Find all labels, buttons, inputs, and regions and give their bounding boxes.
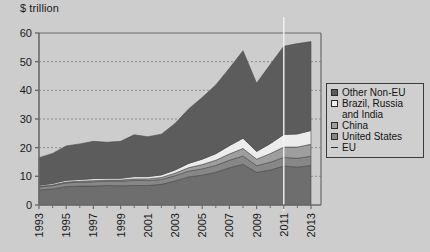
legend-label-united-states: United States — [342, 131, 402, 142]
x-tick-2009: 2009 — [251, 213, 263, 237]
legend-swatch-china — [331, 122, 338, 129]
legend-item-eu: EU — [331, 142, 420, 153]
y-tick-60: 60 — [20, 27, 32, 39]
y-tick-40: 40 — [20, 84, 32, 96]
x-tick-2011: 2011 — [278, 213, 290, 237]
legend-label-china: China — [342, 120, 368, 131]
x-tick-labels: 1993199519971999200120032005200720092011… — [33, 213, 317, 237]
x-tick-2007: 2007 — [223, 213, 235, 237]
x-tick-1997: 1997 — [87, 213, 99, 237]
y-tick-50: 50 — [20, 56, 32, 68]
legend-item-other-non-eu: Other Non-EU — [331, 87, 420, 98]
x-tick-2003: 2003 — [169, 213, 181, 237]
legend-item-china: China — [331, 120, 420, 131]
area-layers — [39, 42, 311, 205]
y-tick-30: 30 — [20, 113, 32, 125]
legend-label-brazil-russia-india-line2: and India — [342, 109, 420, 120]
legend-label-other-non-eu: Other Non-EU — [342, 87, 405, 98]
y-tick-20: 20 — [20, 142, 32, 154]
y-tick-labels: 0102030405060 — [20, 27, 32, 211]
legend-item-united-states: United States — [331, 131, 420, 142]
x-tick-2013: 2013 — [305, 213, 317, 237]
x-tick-1999: 1999 — [115, 213, 127, 237]
y-tick-0: 0 — [26, 199, 32, 211]
chart-legend: Other Non-EU Brazil, Russia and India Ch… — [326, 83, 424, 158]
legend-swatch-brazil-russia-india — [331, 100, 338, 107]
y-tick-10: 10 — [20, 170, 32, 182]
chart-root: $ trillion 0102030405060 199319951997199… — [0, 0, 430, 252]
x-tick-2005: 2005 — [196, 213, 208, 237]
legend-swatch-united-states — [331, 133, 338, 140]
legend-label-brazil-russia-india: Brazil, Russia — [342, 98, 403, 109]
legend-swatch-other-non-eu — [331, 89, 338, 96]
legend-swatch-eu — [331, 144, 338, 151]
legend-label-eu: EU — [342, 142, 356, 153]
x-tick-1995: 1995 — [60, 213, 72, 237]
x-tick-1993: 1993 — [33, 213, 45, 237]
legend-item-brazil-russia-india: Brazil, Russia — [331, 98, 420, 109]
x-tick-2001: 2001 — [142, 213, 154, 237]
